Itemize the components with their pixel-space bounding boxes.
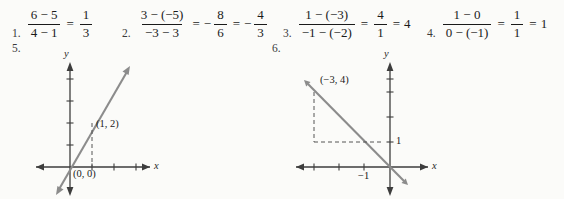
y-tick-label-1: 1 xyxy=(396,135,401,146)
worksheet-answer-page: 1. 6 − 5 4 − 1 = 1 3 2. 3 − (−5) −3 − 3 … xyxy=(0,0,564,199)
y-axis-group xyxy=(387,62,394,196)
result-denominator: 6 xyxy=(214,24,227,41)
y-axis-arrow-down xyxy=(67,187,74,196)
result-fraction: 4 1 xyxy=(374,8,387,40)
equals-sign-2: = xyxy=(529,16,536,32)
result-denominator: 1 xyxy=(511,24,524,41)
fraction-denominator: −1 − (−2) xyxy=(299,24,355,41)
fraction-expression: 3 − (−5) −3 − 3 xyxy=(138,8,187,40)
problem-number: 2. xyxy=(122,27,131,40)
y-axis-arrow-up xyxy=(387,62,394,71)
equals-sign: = xyxy=(66,16,73,32)
result-fraction: 8 6 xyxy=(214,8,227,40)
problem-number: 4. xyxy=(427,27,436,40)
problem-number: 1. xyxy=(12,27,21,40)
fraction-denominator: 4 − 1 xyxy=(28,24,61,41)
equals-sign: = xyxy=(192,16,199,32)
fraction-denominator: −3 − 3 xyxy=(142,24,182,41)
fraction-expression: 1 − (−3) −1 − (−2) xyxy=(299,8,355,40)
result-denominator-2: 3 xyxy=(254,24,267,41)
negative-sign-2: − xyxy=(244,16,251,32)
point-label-1-2: (1, 2) xyxy=(96,118,119,129)
fraction-numerator: 1 − (−3) xyxy=(302,8,351,24)
fraction-expression: 6 − 5 4 − 1 xyxy=(28,8,61,40)
equals-sign-2: = xyxy=(393,16,400,32)
problem-number: 3. xyxy=(283,27,292,40)
x-axis-arrow-right xyxy=(142,164,150,171)
equals-sign-2: = xyxy=(233,16,240,32)
graph-6-svg xyxy=(280,48,480,199)
answer-item-1: 1. 6 − 5 4 − 1 = 1 3 xyxy=(12,8,94,40)
result-numerator-2: 4 xyxy=(254,8,267,24)
x-axis-arrow-left xyxy=(296,164,304,171)
result-denominator: 1 xyxy=(374,24,387,41)
x-axis-arrow-left xyxy=(36,164,44,171)
x-axis-arrow-right xyxy=(420,164,428,171)
point-label-0-0: (0, 0) xyxy=(73,168,96,179)
graph-problem-6: x y (−3, 4) 1 −1 xyxy=(280,48,480,199)
result-numerator: 4 xyxy=(374,8,387,24)
x-tick-label-neg1: −1 xyxy=(358,170,369,181)
plotted-line-group xyxy=(304,80,408,185)
result-fraction-2: 4 3 xyxy=(254,8,267,40)
fraction-numerator: 3 − (−5) xyxy=(138,8,187,24)
fraction-expression: 1 − 0 0 − (−1) xyxy=(443,8,492,40)
result-numerator: 1 xyxy=(80,8,93,24)
final-value: 4 xyxy=(404,16,411,32)
x-axis-label: x xyxy=(432,160,437,171)
result-fraction: 1 3 xyxy=(80,8,93,40)
y-axis-label: y xyxy=(64,48,69,59)
result-numerator: 8 xyxy=(214,8,227,24)
answer-item-3: 3. 1 − (−3) −1 − (−2) = 4 1 = 4 xyxy=(283,8,410,40)
fraction-denominator: 0 − (−1) xyxy=(443,24,492,41)
fraction-numerator: 6 − 5 xyxy=(28,8,61,24)
equals-sign: = xyxy=(497,16,504,32)
x-axis-label: x xyxy=(154,160,159,171)
negative-sign: − xyxy=(204,16,211,32)
graph-problem-5: x y (1, 2) (0, 0) xyxy=(0,48,200,199)
result-numerator: 1 xyxy=(511,8,524,24)
fraction-numerator: 1 − 0 xyxy=(451,8,484,24)
y-axis-arrow-up xyxy=(67,62,74,71)
y-axis-label: y xyxy=(384,48,389,59)
answer-item-4: 4. 1 − 0 0 − (−1) = 1 1 = 1 xyxy=(427,8,547,40)
result-fraction: 1 1 xyxy=(511,8,524,40)
answer-item-2: 2. 3 − (−5) −3 − 3 = − 8 6 = − 4 3 xyxy=(122,8,269,40)
equals-sign: = xyxy=(361,16,368,32)
point-label-neg3-4: (−3, 4) xyxy=(320,74,349,85)
result-denominator: 3 xyxy=(80,24,93,41)
y-axis-arrow-down xyxy=(387,187,394,196)
final-value: 1 xyxy=(541,16,548,32)
